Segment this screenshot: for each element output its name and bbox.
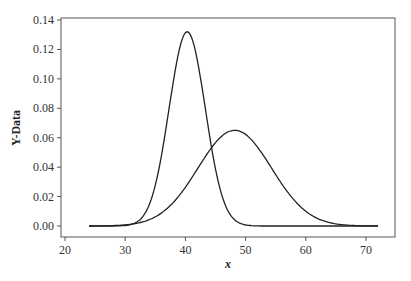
- x-tick-label: 70: [360, 243, 372, 257]
- y-tick-label: 0.00: [33, 219, 54, 233]
- y-tick-label: 0.08: [33, 101, 54, 115]
- plot-lines: [89, 32, 378, 226]
- y-tick-label: 0.10: [33, 72, 54, 86]
- x-axis-title: x: [224, 257, 231, 271]
- series-line-narrow: [89, 32, 378, 226]
- plot-frame: [61, 18, 395, 237]
- y-tick-label: 0.12: [33, 42, 54, 56]
- y-axis: 0.000.020.040.060.080.100.120.14: [33, 13, 61, 233]
- x-axis: 203040506070: [59, 237, 372, 257]
- x-tick-label: 40: [179, 243, 191, 257]
- y-tick-label: 0.02: [33, 190, 54, 204]
- y-tick-label: 0.14: [33, 13, 54, 27]
- y-axis-title: Y-Data: [9, 110, 23, 146]
- x-tick-label: 30: [119, 243, 131, 257]
- x-tick-label: 60: [300, 243, 312, 257]
- y-tick-label: 0.06: [33, 131, 54, 145]
- x-tick-label: 20: [59, 243, 71, 257]
- x-tick-label: 50: [240, 243, 252, 257]
- y-tick-label: 0.04: [33, 160, 54, 174]
- chart: 0.000.020.040.060.080.100.120.14 2030405…: [0, 0, 411, 281]
- series-line-wide: [89, 130, 378, 226]
